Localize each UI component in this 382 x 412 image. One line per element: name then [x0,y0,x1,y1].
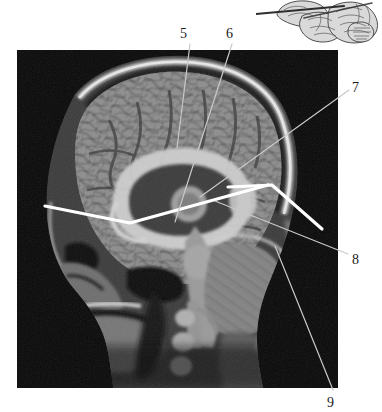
callout-label-7: 7 [352,81,359,95]
brain-orientation-inset [256,0,382,46]
callout-label-5: 5 [180,27,187,41]
brain-inset-drawing [256,0,382,46]
anatomical-figure: 5 6 7 8 9 [0,0,382,412]
callout-label-6: 6 [226,27,233,41]
mri-raster [17,50,338,388]
callout-label-8: 8 [352,253,359,267]
sagittal-mri-image [17,50,338,388]
callout-label-9: 9 [327,396,334,410]
